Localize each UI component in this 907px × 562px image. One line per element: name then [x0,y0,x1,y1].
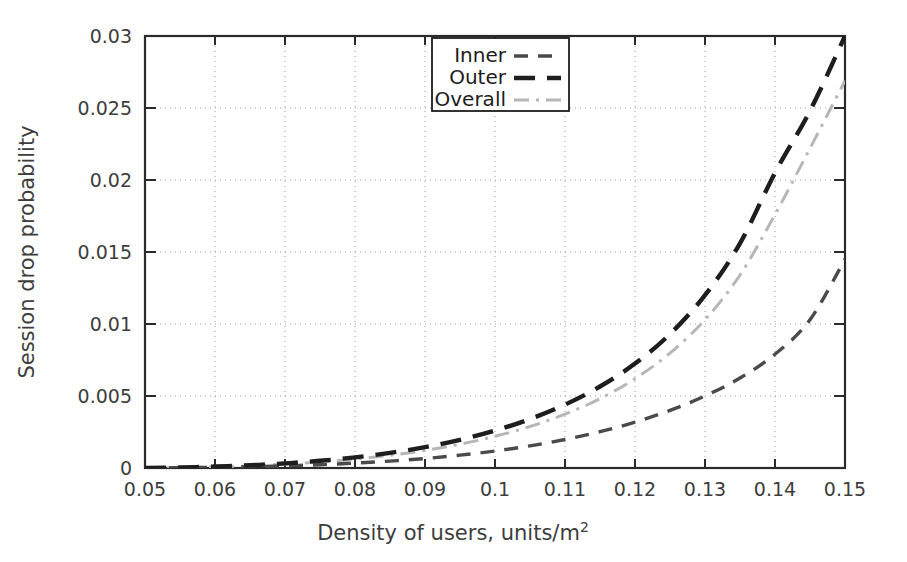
x-tick-label: 0.09 [404,478,446,500]
x-tick-label: 0.15 [824,478,866,500]
session-drop-probability-chart: 0.050.060.070.080.090.10.110.120.130.140… [0,0,907,562]
x-axis-title-text: Density of users, units/m [317,521,580,545]
x-tick-label: 0.08 [334,478,376,500]
y-tick-label: 0.005 [78,385,132,407]
y-tick-label: 0.01 [90,313,132,335]
x-axis-title-superscript: 2 [580,519,589,535]
x-tick-label: 0.06 [194,478,236,500]
x-axis-title: Density of users, units/m2 [317,519,589,545]
x-axis-tick-labels: 0.050.060.070.080.090.10.110.120.130.140… [124,478,866,500]
legend-label-inner: Inner [454,43,507,67]
x-tick-label: 0.07 [264,478,306,500]
y-tick-label: 0.025 [78,97,132,119]
y-tick-label: 0 [120,457,132,479]
x-tick-label: 0.05 [124,478,166,500]
x-tick-label: 0.11 [544,478,586,500]
x-tick-label: 0.1 [480,478,510,500]
y-tick-label: 0.03 [90,25,132,47]
x-tick-label: 0.12 [614,478,656,500]
y-tick-label: 0.02 [90,169,132,191]
x-tick-label: 0.13 [684,478,726,500]
legend-label-overall: Overall [435,87,506,111]
y-axis-title: Session drop probability [15,125,39,378]
legend-label-outer: Outer [449,65,507,89]
chart-legend[interactable]: InnerOuterOverall [432,38,569,111]
chart-figure: 0.050.060.070.080.090.10.110.120.130.140… [0,0,907,562]
x-tick-label: 0.14 [754,478,796,500]
y-tick-label: 0.015 [78,241,132,263]
